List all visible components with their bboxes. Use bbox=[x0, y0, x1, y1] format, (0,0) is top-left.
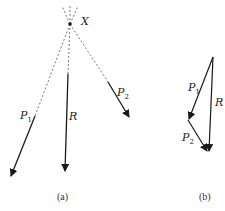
label-p1-b: P1 bbox=[188, 82, 200, 96]
caption-a: (a) bbox=[57, 192, 68, 202]
panel-a bbox=[35, 4, 108, 116]
caption-b: (b) bbox=[199, 192, 211, 202]
diagram-svg bbox=[0, 0, 225, 211]
vector-p1-a bbox=[11, 116, 35, 176]
label-p1-a: P1 bbox=[20, 110, 32, 124]
point-x bbox=[68, 22, 72, 26]
label-x: X bbox=[81, 16, 89, 27]
label-p2-b: P2 bbox=[182, 132, 194, 146]
force-diagram: X P1 R P2 P1 R P2 (a) (b) bbox=[0, 0, 225, 211]
label-r-a: R bbox=[69, 111, 77, 122]
vector-r-b bbox=[209, 57, 213, 151]
label-p2-a: P2 bbox=[117, 87, 129, 101]
vector-r-a bbox=[65, 74, 68, 171]
label-r-b: R bbox=[215, 97, 223, 108]
